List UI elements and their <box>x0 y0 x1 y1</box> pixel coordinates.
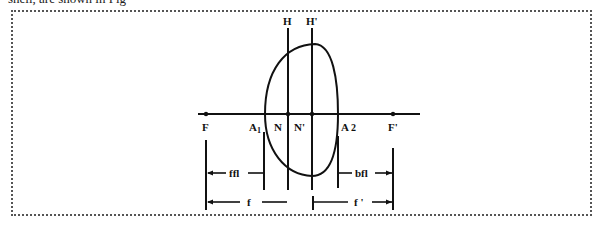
label-f-prime-dimension: f ' <box>354 196 363 208</box>
focal-point-f-dot <box>204 112 208 116</box>
label-n-prime: N' <box>294 121 305 133</box>
arrow-left-icon <box>207 200 213 205</box>
label-f-prime: F' <box>388 121 398 133</box>
nodal-point-n-prime-dot <box>310 112 314 116</box>
arrow-left-icon <box>207 171 213 176</box>
label-h: H <box>283 15 292 27</box>
label-a2: A2 <box>341 121 356 133</box>
label-a1: A1 <box>249 121 261 135</box>
lens-shape <box>265 44 338 176</box>
label-f: F <box>202 121 209 133</box>
label-ffl: ffl <box>229 167 239 179</box>
label-h-prime: H' <box>306 15 318 27</box>
label-n: N <box>274 121 282 133</box>
focal-point-f-prime-dot <box>391 112 395 116</box>
arrow-right-icon <box>386 171 392 176</box>
label-f-dimension: f <box>247 196 251 208</box>
nodal-point-n-dot <box>286 112 290 116</box>
thick-lens-diagram: H H' F A1 N N' A2 F' ffl bfl f f ' <box>0 0 603 225</box>
arrow-right-icon <box>386 200 392 205</box>
label-bfl: bfl <box>355 167 368 179</box>
